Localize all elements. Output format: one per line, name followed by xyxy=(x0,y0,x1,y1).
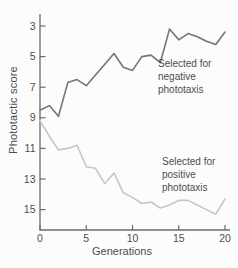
y-tick-label-9: 9 xyxy=(30,111,36,123)
x-tick-label-10: 10 xyxy=(127,232,139,244)
y-tick-label-3: 3 xyxy=(30,20,36,32)
x-tick-label-15: 15 xyxy=(173,232,185,244)
y-tick-label-15: 15 xyxy=(24,203,36,215)
x-tick-label-5: 5 xyxy=(83,232,89,244)
axes xyxy=(40,14,230,230)
annotation-negative-phototaxis: Selected for negative phototaxis xyxy=(158,57,211,96)
x-axis-title: Generations xyxy=(62,245,182,257)
x-tick-label-0: 0 xyxy=(37,232,43,244)
annotation-positive-phototaxis: Selected for positive phototaxis xyxy=(162,155,215,194)
phototaxis-selection-chart: 357911131505101520 Phototactic score Gen… xyxy=(0,0,238,268)
y-tick-label-13: 13 xyxy=(24,173,36,185)
x-tick-label-20: 20 xyxy=(219,232,231,244)
plot-area: 357911131505101520 xyxy=(0,0,238,268)
y-tick-label-7: 7 xyxy=(30,81,36,93)
y-tick-label-11: 11 xyxy=(25,142,36,154)
y-tick-label-5: 5 xyxy=(30,50,36,62)
y-axis-title: Phototactic score xyxy=(7,50,19,170)
